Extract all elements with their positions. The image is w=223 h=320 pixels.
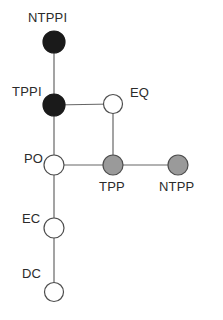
graph-node-ntpp[interactable] (168, 155, 188, 175)
node-label-tppi: TPPI (12, 85, 42, 98)
graph-node-dc[interactable] (45, 283, 64, 302)
node-label-dc: DC (22, 267, 41, 280)
node-label-ec: EC (22, 212, 40, 225)
node-layer (43, 31, 188, 302)
node-label-po: PO (24, 152, 43, 165)
node-label-eq: EQ (130, 86, 149, 99)
graph-node-po[interactable] (44, 155, 64, 175)
node-label-ntppi: NTPPI (28, 11, 67, 24)
graph-node-tpp[interactable] (103, 155, 123, 175)
graph-node-ec[interactable] (44, 218, 64, 238)
node-label-tpp: TPP (99, 180, 125, 193)
graph-node-ntppi[interactable] (43, 31, 65, 53)
graph-node-tppi[interactable] (43, 94, 65, 116)
node-label-ntpp: NTPP (159, 180, 194, 193)
graph-node-eq[interactable] (104, 95, 123, 114)
diagram-canvas: NTPPITPPIEQPOTPPNTPPECDC (0, 0, 223, 320)
